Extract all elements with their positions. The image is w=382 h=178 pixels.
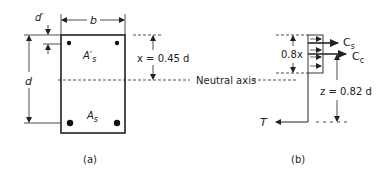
compression-bar-left [67,41,71,45]
compression-bar-right [115,41,119,45]
caption-a: (a) [83,154,97,165]
tension-steel-label: As [86,110,98,124]
tension-label: T [260,116,268,129]
lever-arm-label: z = 0.82 d [320,86,372,97]
tension-bar-right [114,120,120,126]
caption-b: (b) [291,154,305,165]
neutral-axis-label: Neutral axis [196,75,256,86]
steel-force-label: Cs [343,36,355,51]
beam-section-diagram: b d d′ A′s As x = 0.45 d (a) Neutral axi… [0,0,382,178]
tension-bar-left [67,120,73,126]
cover-label: d′ [35,12,44,23]
compression-steel-label: A′s [82,50,96,64]
concrete-force-label: Cc [352,50,364,65]
block-depth-label: 0.8x [281,49,303,60]
width-label: b [90,14,97,27]
panel-a: b d d′ A′s As x = 0.45 d (a) [24,12,189,165]
panel-b: 0.8x Cs Cc T z = 0.82 d (b) [260,35,372,165]
na-depth-label: x = 0.45 d [137,53,189,64]
depth-label: d [25,75,33,88]
